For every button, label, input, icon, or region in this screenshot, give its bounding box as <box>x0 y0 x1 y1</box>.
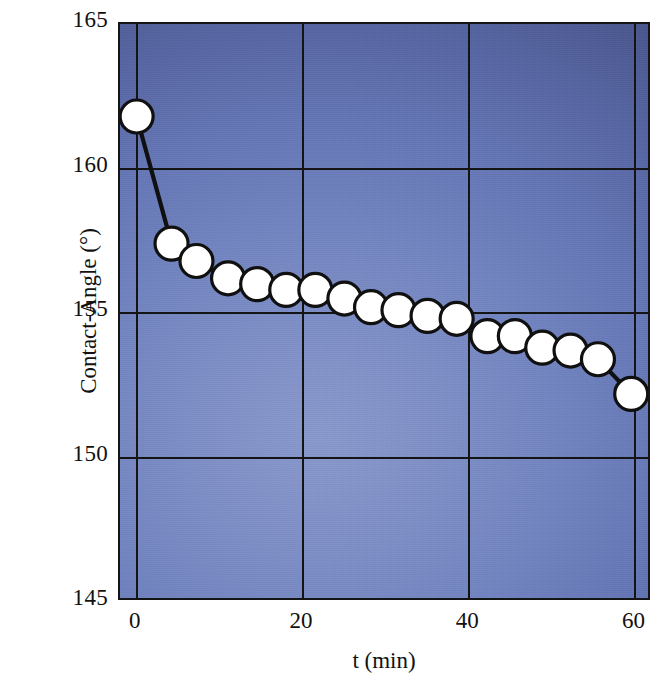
y-tick-label: 155 <box>46 296 108 322</box>
y-tick-label: 160 <box>46 152 108 178</box>
series-markers <box>120 100 648 410</box>
x-tick-label: 40 <box>427 608 507 634</box>
plot-area <box>118 22 650 600</box>
data-point-marker <box>241 268 274 301</box>
data-point-marker <box>382 294 415 327</box>
data-point-marker <box>180 244 213 277</box>
data-point-marker <box>212 262 245 295</box>
x-tick-label: 0 <box>95 608 175 634</box>
y-tick-label: 165 <box>46 7 108 33</box>
x-axis-title: t (min) <box>118 648 650 674</box>
data-series-layer <box>120 24 650 600</box>
y-tick-label: 150 <box>46 441 108 467</box>
x-tick-label: 60 <box>593 608 664 634</box>
data-point-marker <box>120 100 153 133</box>
y-axis-title-container: Contact-Angle (°) <box>10 22 44 600</box>
data-point-marker <box>440 302 473 335</box>
data-point-marker <box>615 377 648 410</box>
data-point-marker <box>581 343 614 376</box>
chart-figure: Contact-Angle (°) 145150155160165 020406… <box>0 0 664 691</box>
x-tick-label: 20 <box>261 608 341 634</box>
